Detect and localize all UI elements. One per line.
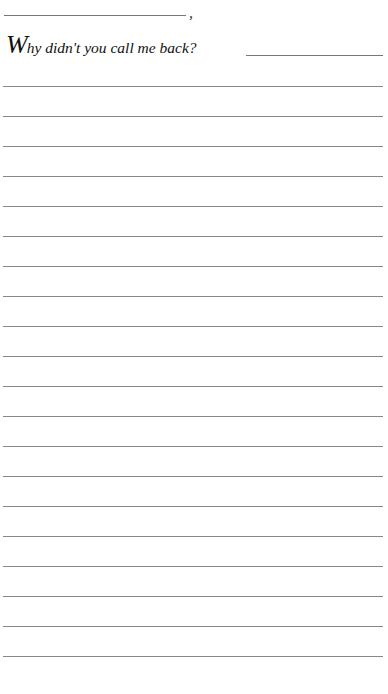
writing-line[interactable] [3, 626, 383, 656]
writing-line[interactable] [3, 266, 383, 296]
writing-line[interactable] [3, 146, 383, 176]
writing-line[interactable] [3, 446, 383, 476]
writing-line[interactable] [3, 566, 383, 596]
writing-lines [3, 86, 383, 686]
prompt-text: hy didn't you call me back? [27, 39, 197, 56]
writing-line[interactable] [3, 326, 383, 356]
writing-line[interactable] [3, 656, 383, 686]
salutation-blank[interactable] [4, 15, 186, 16]
answer-blank-first[interactable] [246, 55, 383, 56]
writing-line[interactable] [3, 116, 383, 146]
writing-line[interactable] [3, 236, 383, 266]
writing-line[interactable] [3, 476, 383, 506]
writing-line[interactable] [3, 596, 383, 626]
writing-line[interactable] [3, 356, 383, 386]
writing-line[interactable] [3, 206, 383, 236]
prompt-question: Why didn't you call me back? [6, 30, 197, 60]
writing-line[interactable] [3, 296, 383, 326]
salutation-comma: , [189, 4, 193, 22]
writing-line[interactable] [3, 176, 383, 206]
writing-line[interactable] [3, 506, 383, 536]
prompt-drop-cap: W [6, 30, 27, 59]
writing-line[interactable] [3, 416, 383, 446]
writing-line[interactable] [3, 86, 383, 116]
writing-line[interactable] [3, 386, 383, 416]
writing-line[interactable] [3, 536, 383, 566]
